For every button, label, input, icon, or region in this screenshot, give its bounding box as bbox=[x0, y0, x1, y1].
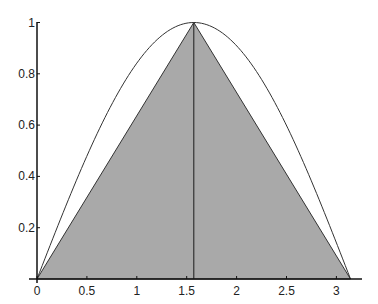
chart: 00.511.522.53 0.20.40.60.81 bbox=[0, 0, 378, 304]
y-tick-label: 0.4 bbox=[18, 169, 35, 183]
x-tick-label: 1 bbox=[133, 284, 140, 298]
y-tick-label: 0.6 bbox=[18, 118, 35, 132]
x-tick-label: 2.5 bbox=[278, 284, 295, 298]
y-tick-label: 0.8 bbox=[18, 67, 35, 81]
x-tick-label: 0 bbox=[34, 284, 41, 298]
y-tick-label: 0.2 bbox=[18, 221, 35, 235]
x-tick-label: 0.5 bbox=[79, 284, 96, 298]
y-tick-label: 1 bbox=[28, 16, 35, 30]
x-tick-label: 1.5 bbox=[178, 284, 195, 298]
x-tick-label: 3 bbox=[333, 284, 340, 298]
x-tick-label: 2 bbox=[233, 284, 240, 298]
